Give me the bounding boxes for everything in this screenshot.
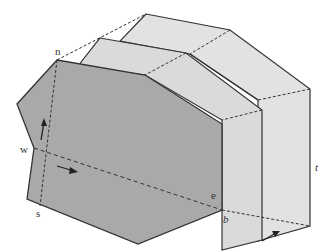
label-n: n [55, 46, 61, 57]
prism-diagram [0, 0, 335, 252]
label-t: t [315, 162, 318, 173]
label-w: w [20, 144, 28, 155]
label-s: s [36, 208, 40, 219]
label-e: e [211, 190, 216, 201]
label-b: b [223, 214, 229, 225]
